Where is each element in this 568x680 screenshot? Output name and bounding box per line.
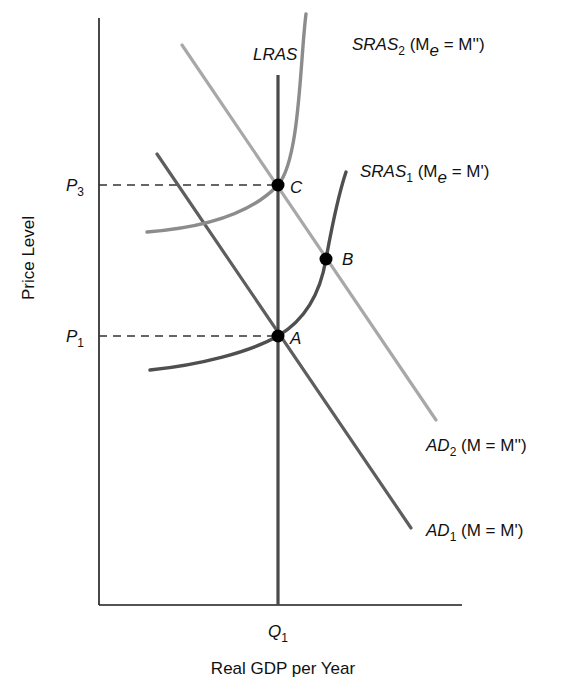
as-ad-diagram: C B A LRAS SRAS2 (Me = M'') SRAS1 (Me = … <box>0 0 568 680</box>
x-axis-title: Real GDP per Year <box>211 659 356 678</box>
y-tick-p1: P1 <box>66 327 84 350</box>
ad2-curve <box>182 45 436 420</box>
y-axis-title: Price Level <box>19 216 38 300</box>
sras2-label: SRAS2 (Me = M'') <box>352 35 485 60</box>
sras1-label: SRAS1 (Me = M') <box>360 162 489 187</box>
ad1-curve <box>157 154 411 528</box>
sras1-curve <box>150 172 346 370</box>
point-a-dot <box>272 330 285 343</box>
point-c-label: C <box>290 178 303 197</box>
y-tick-p3: P3 <box>66 176 84 199</box>
point-b-label: B <box>342 250 353 269</box>
point-a-label: A <box>289 329 301 348</box>
lras-label: LRAS <box>253 45 298 64</box>
ad2-label: AD2 (M = M'') <box>425 436 527 459</box>
point-b-dot <box>320 253 333 266</box>
x-tick-q1: Q1 <box>268 622 288 645</box>
point-c-dot <box>272 179 285 192</box>
ad1-label: AD1 (M = M') <box>425 521 523 544</box>
